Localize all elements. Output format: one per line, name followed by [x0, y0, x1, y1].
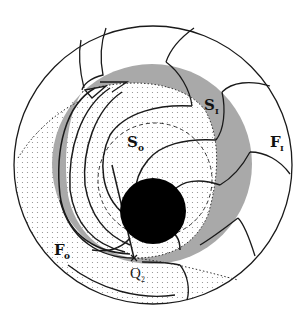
- svg-text:I: I: [215, 106, 219, 116]
- svg-text:S: S: [204, 96, 215, 114]
- svg-text:o: o: [138, 143, 144, 153]
- svg-text:o: o: [64, 251, 70, 261]
- svg-text:I: I: [280, 143, 284, 153]
- label-f-i: F I: [270, 133, 284, 153]
- center-disk: [120, 178, 186, 244]
- svg-text:S: S: [127, 133, 138, 151]
- svg-text:2: 2: [141, 275, 145, 284]
- manifold-diagram: S I F I S o F o Q 2: [0, 0, 302, 319]
- svg-text:Q: Q: [130, 265, 141, 281]
